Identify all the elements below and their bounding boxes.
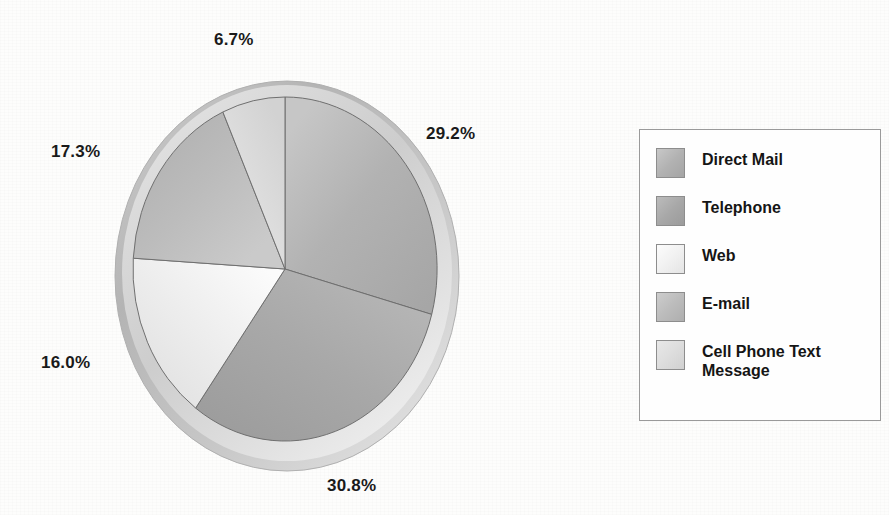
legend-box: Direct Mail Telephone Web E-mail Cell Ph…: [639, 129, 881, 421]
pie-svg: [112, 78, 462, 474]
legend-label-web: Web: [702, 243, 735, 266]
legend-label-direct-mail: Direct Mail: [702, 147, 783, 170]
legend-item-direct-mail[interactable]: Direct Mail: [656, 147, 874, 178]
legend-label-email: E-mail: [702, 291, 750, 314]
legend-item-email[interactable]: E-mail: [656, 291, 874, 322]
legend-swatch-web: [656, 244, 685, 274]
legend-swatch-cell-phone-text-message: [656, 340, 685, 370]
legend-label-cell-phone-text-message: Cell Phone Text Message: [702, 339, 870, 381]
pie-slices: [133, 97, 437, 441]
legend-item-web[interactable]: Web: [656, 243, 874, 274]
pie-chart-figure: 6.7% 29.2% 30.8% 16.0% 17.3% Direct Mail…: [0, 0, 889, 515]
pie-label-email: 17.3%: [51, 142, 100, 162]
legend-item-cell-phone-text-message[interactable]: Cell Phone Text Message: [656, 339, 874, 381]
legend-items: Direct Mail Telephone Web E-mail Cell Ph…: [656, 147, 874, 398]
pie-label-web: 16.0%: [41, 353, 90, 373]
legend-label-telephone: Telephone: [702, 195, 781, 218]
pie-label-cell-phone-text-message: 6.7%: [214, 30, 254, 50]
pie-label-direct-mail: 29.2%: [426, 124, 475, 144]
legend-item-telephone[interactable]: Telephone: [656, 195, 874, 226]
pie-label-telephone: 30.8%: [327, 476, 376, 496]
legend-swatch-email: [656, 292, 685, 322]
pie-chart-graphic: [112, 78, 462, 474]
legend-swatch-telephone: [656, 196, 685, 226]
legend-swatch-direct-mail: [656, 148, 685, 178]
